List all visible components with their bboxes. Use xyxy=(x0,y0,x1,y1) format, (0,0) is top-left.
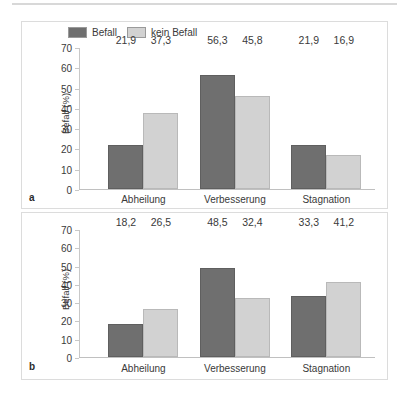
bar-rect xyxy=(143,309,178,357)
y-tick-60 xyxy=(75,68,79,69)
bar-value-label: 33,3 xyxy=(299,216,319,228)
chart-panel-b: Befall (%) 010203040506070 18,226,548,53… xyxy=(21,212,388,380)
y-tick-label-60: 60 xyxy=(61,63,72,74)
x-axis-line-a xyxy=(79,189,375,190)
bar-value-label: 41,2 xyxy=(334,216,354,228)
y-tick-label-0: 0 xyxy=(66,353,72,364)
bar-group-verbesserung: 48,532,4 xyxy=(200,230,270,357)
bar-value-label: 32,4 xyxy=(242,216,262,228)
y-tick-label-10: 10 xyxy=(61,164,72,175)
bar-stagnation-befall: 21,9 xyxy=(291,48,326,189)
plot-area-b: Befall (%) 010203040506070 18,226,548,53… xyxy=(79,230,375,358)
y-tick-70 xyxy=(75,48,79,49)
bar-rect xyxy=(143,113,178,189)
y-tick-label-60: 60 xyxy=(61,243,72,254)
bar-rect xyxy=(326,282,361,357)
bar-verbesserung-kein-befall: 32,4 xyxy=(235,230,270,357)
bar-value-label: 48,5 xyxy=(207,216,227,228)
bar-abheilung-befall: 21,9 xyxy=(108,48,143,189)
y-tick-label-70: 70 xyxy=(61,225,72,236)
y-tick-20 xyxy=(75,149,79,150)
bar-value-label: 37,3 xyxy=(151,34,171,46)
y-tick-0 xyxy=(75,358,79,359)
bars-layer-b: 18,226,548,532,433,341,2 xyxy=(80,230,375,357)
bar-value-label: 45,8 xyxy=(242,34,262,46)
y-tick-label-20: 20 xyxy=(61,144,72,155)
bar-value-label: 56,3 xyxy=(207,34,227,46)
bar-abheilung-kein-befall: 26,5 xyxy=(143,230,178,357)
bar-value-label: 26,5 xyxy=(151,216,171,228)
bar-verbesserung-befall: 48,5 xyxy=(200,230,235,357)
panel-letter-a: a xyxy=(29,192,35,203)
bar-value-label: 18,2 xyxy=(116,216,136,228)
y-tick-0 xyxy=(75,190,79,191)
bar-rect xyxy=(291,296,326,357)
y-tick-label-10: 10 xyxy=(61,334,72,345)
y-tick-50 xyxy=(75,89,79,90)
bar-verbesserung-kein-befall: 45,8 xyxy=(235,48,270,189)
bars-layer-a: 21,937,356,345,821,916,9 xyxy=(80,48,375,189)
dark-gray-swatch-icon xyxy=(68,27,87,38)
bar-group-abheilung: 18,226,5 xyxy=(108,230,178,357)
y-tick-40 xyxy=(75,285,79,286)
bar-value-label: 21,9 xyxy=(116,34,136,46)
bar-rect xyxy=(200,75,235,189)
bar-stagnation-kein-befall: 16,9 xyxy=(326,48,361,189)
y-tick-40 xyxy=(75,109,79,110)
y-tick-30 xyxy=(75,303,79,304)
bar-stagnation-befall: 33,3 xyxy=(291,230,326,357)
y-tick-20 xyxy=(75,321,79,322)
y-tick-70 xyxy=(75,230,79,231)
category-label-stagnation: Stagnation xyxy=(302,363,350,374)
plot-area-a: Befall (%) 010203040506070 21,937,356,34… xyxy=(79,48,375,190)
bar-rect xyxy=(108,324,143,357)
y-tick-label-40: 40 xyxy=(61,279,72,290)
y-tick-60 xyxy=(75,248,79,249)
bar-group-stagnation: 21,916,9 xyxy=(291,48,361,189)
bar-rect xyxy=(235,298,270,357)
y-tick-label-50: 50 xyxy=(61,83,72,94)
bar-verbesserung-befall: 56,3 xyxy=(200,48,235,189)
category-label-abheilung: Abheilung xyxy=(121,363,165,374)
legend-label-befall: Befall xyxy=(92,27,117,38)
panel-letter-b: b xyxy=(29,361,35,372)
chart-panel-a: Befall kein Befall Befall (%) 0102030405… xyxy=(21,21,388,209)
bar-rect xyxy=(200,268,235,357)
y-tick-label-20: 20 xyxy=(61,316,72,327)
bar-group-verbesserung: 56,345,8 xyxy=(200,48,270,189)
bar-group-abheilung: 21,937,3 xyxy=(108,48,178,189)
y-tick-10 xyxy=(75,170,79,171)
category-label-abheilung: Abheilung xyxy=(121,194,165,205)
bar-rect xyxy=(235,96,270,189)
bar-value-label: 16,9 xyxy=(334,34,354,46)
x-axis-line-b xyxy=(79,357,375,358)
bar-rect xyxy=(108,145,143,189)
y-tick-label-50: 50 xyxy=(61,261,72,272)
y-tick-label-70: 70 xyxy=(61,43,72,54)
y-tick-label-0: 0 xyxy=(66,185,72,196)
bar-abheilung-befall: 18,2 xyxy=(108,230,143,357)
category-label-verbesserung: Verbesserung xyxy=(204,363,266,374)
category-label-verbesserung: Verbesserung xyxy=(204,194,266,205)
legend-item-befall: Befall xyxy=(68,27,117,38)
bar-rect xyxy=(326,155,361,189)
y-tick-label-40: 40 xyxy=(61,103,72,114)
bar-stagnation-kein-befall: 41,2 xyxy=(326,230,361,357)
bar-abheilung-kein-befall: 37,3 xyxy=(143,48,178,189)
y-tick-10 xyxy=(75,340,79,341)
top-divider-rule xyxy=(12,3,397,5)
bar-group-stagnation: 33,341,2 xyxy=(291,230,361,357)
y-tick-50 xyxy=(75,267,79,268)
y-tick-30 xyxy=(75,129,79,130)
y-tick-label-30: 30 xyxy=(61,298,72,309)
category-label-stagnation: Stagnation xyxy=(302,194,350,205)
bar-rect xyxy=(291,145,326,189)
y-tick-label-30: 30 xyxy=(61,124,72,135)
bar-value-label: 21,9 xyxy=(299,34,319,46)
